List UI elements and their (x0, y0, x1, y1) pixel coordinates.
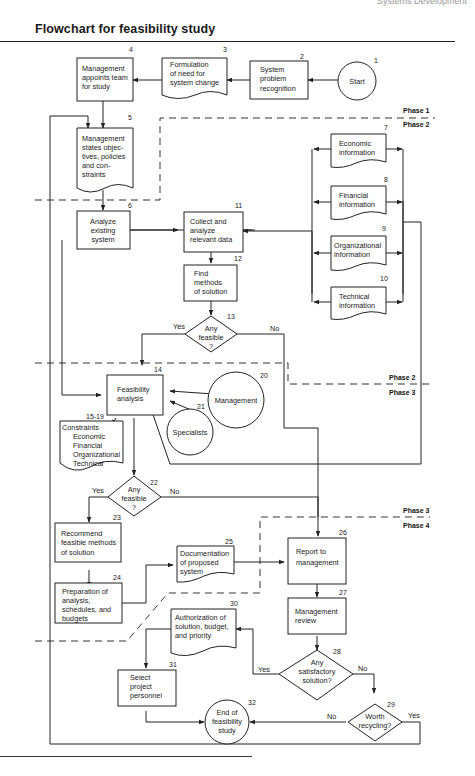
svg-text:30: 30 (230, 600, 238, 607)
svg-text:Technical: Technical (73, 459, 104, 468)
node-31-select-project-personnel: 31 Select project personnel (118, 661, 177, 706)
node-7-economic-information: 7 Economic information (331, 124, 388, 168)
svg-text:9: 9 (382, 225, 386, 232)
svg-text:analyze: analyze (190, 226, 215, 235)
svg-text:7: 7 (384, 124, 388, 131)
svg-text:13: 13 (227, 313, 235, 320)
node-20-management: 20 Management (208, 372, 268, 428)
decision-28-yes-label: Yes (258, 665, 270, 674)
svg-text:Collect and: Collect and (190, 217, 227, 226)
decision-13-yes-label: Yes (173, 322, 185, 331)
decision-29-no-label: No (327, 712, 336, 721)
svg-text:Economic: Economic (339, 139, 371, 148)
svg-text:of proposed: of proposed (180, 558, 219, 567)
svg-text:27: 27 (339, 589, 347, 596)
svg-text:12: 12 (234, 255, 242, 262)
svg-text:for study: for study (82, 82, 110, 91)
node-11-collect-and-analyze: 11 Collect and analyze relevant data (184, 202, 243, 252)
svg-text:Organizational: Organizational (334, 241, 381, 250)
svg-text:methods: methods (194, 278, 222, 287)
svg-text:Worth: Worth (365, 712, 384, 721)
svg-text:28: 28 (333, 648, 341, 655)
node-21-specialists: 21 Specialists (167, 403, 213, 455)
node-2-system-problem-recognition: 2 System problem recognition (250, 53, 308, 99)
svg-text:Organizational: Organizational (73, 450, 120, 459)
phase-2-label: Phase 2 (403, 121, 430, 128)
svg-text:Analyze: Analyze (90, 217, 116, 226)
svg-text:Recommend: Recommend (61, 529, 102, 538)
svg-text:10: 10 (380, 275, 388, 282)
svg-text:Management: Management (82, 64, 125, 73)
node-8-financial-information: 8 Financial information (331, 176, 388, 220)
svg-text:study: study (218, 726, 236, 735)
svg-text:32: 32 (248, 699, 256, 706)
svg-text:satisfactory: satisfactory (299, 667, 336, 676)
node-13-any-feasible-decision: 13 Any feasible ? Yes No (173, 313, 279, 352)
svg-text:?: ? (209, 342, 213, 351)
svg-text:25: 25 (225, 538, 233, 545)
svg-text:Authorization of: Authorization of (175, 613, 227, 622)
svg-text:?: ? (132, 503, 136, 512)
svg-text:Any: Any (311, 658, 324, 667)
svg-text:4: 4 (129, 46, 133, 53)
node-6-analyze-existing-system: 6 Analyze existing system (77, 202, 132, 249)
svg-text:Documentation: Documentation (180, 549, 229, 558)
svg-text:solution?: solution? (302, 676, 331, 685)
svg-text:8: 8 (384, 176, 388, 183)
svg-text:6: 6 (128, 202, 132, 209)
svg-text:Start: Start (349, 77, 364, 86)
node-12-find-methods: 12 Find methods of solution (184, 255, 242, 301)
node-5-management-states-objectives: 5 Management states objec- tives, polici… (77, 114, 133, 192)
svg-text:existing: existing (91, 226, 116, 235)
svg-text:information: information (339, 301, 375, 310)
svg-text:recognition: recognition (260, 84, 296, 93)
svg-text:schedules, and: schedules, and (62, 605, 111, 614)
svg-text:Constraints: Constraints (62, 423, 99, 432)
svg-text:20: 20 (260, 372, 268, 379)
svg-text:3: 3 (223, 46, 227, 53)
svg-text:appoints team: appoints team (82, 73, 128, 82)
node-30-authorization: 30 Authorization of solution, budget, an… (171, 600, 238, 656)
svg-text:information: information (334, 250, 370, 259)
node-3-formulation-of-need: 3 Formulation of need for system change (162, 46, 227, 99)
svg-text:states objec-: states objec- (82, 143, 124, 152)
svg-text:Formulation: Formulation (170, 60, 209, 69)
node-4-management-appoints-team: 4 Management appoints team for study (77, 46, 133, 101)
flowchart: Phase 1 Phase 2 Phase 2 Phase 3 Phase 3 … (0, 0, 475, 776)
svg-text:21: 21 (197, 403, 205, 410)
phase-4-label: Phase 4 (403, 522, 430, 529)
svg-text:Any: Any (128, 485, 141, 494)
svg-text:system change: system change (170, 78, 219, 87)
svg-text:of need for: of need for (170, 69, 205, 78)
svg-text:personnel: personnel (130, 691, 162, 700)
decision-29-yes-label: Yes (408, 711, 420, 720)
node-29-worth-recycling-decision: 29 Worth recycling? No Yes (327, 701, 420, 741)
svg-text:End of: End of (216, 708, 238, 717)
node-9-organizational-information: 9 Organizational information (331, 225, 386, 271)
node-25-documentation-of-proposed-system: 25 Documentation of proposed system (177, 538, 234, 582)
svg-text:31: 31 (169, 661, 177, 668)
svg-text:and con-: and con- (82, 161, 111, 170)
node-32-end-of-feasibility-study: 32 End of feasibility study (205, 699, 256, 744)
svg-text:26: 26 (339, 529, 347, 536)
svg-text:management: management (296, 558, 339, 567)
phase-3-label: Phase 3 (389, 389, 416, 396)
svg-text:System: System (260, 65, 284, 74)
svg-text:2: 2 (300, 53, 304, 60)
svg-text:feasibility: feasibility (212, 717, 242, 726)
svg-text:Economic: Economic (73, 432, 105, 441)
svg-text:budgets: budgets (62, 614, 88, 623)
svg-text:Select: Select (130, 673, 150, 682)
decision-13-no-label: No (270, 324, 279, 333)
svg-text:Find: Find (194, 269, 208, 278)
svg-text:problem: problem (260, 74, 286, 83)
svg-text:Specialists: Specialists (173, 428, 208, 437)
svg-text:14: 14 (154, 366, 162, 373)
svg-text:information: information (339, 148, 375, 157)
svg-text:feasible methods: feasible methods (61, 538, 117, 547)
svg-text:recycling?: recycling? (359, 721, 392, 730)
svg-text:1: 1 (374, 57, 378, 64)
svg-text:solution, budget,: solution, budget, (175, 622, 229, 631)
phase-3-label-bottom: Phase 3 (403, 507, 430, 514)
svg-text:Financial: Financial (339, 191, 369, 200)
